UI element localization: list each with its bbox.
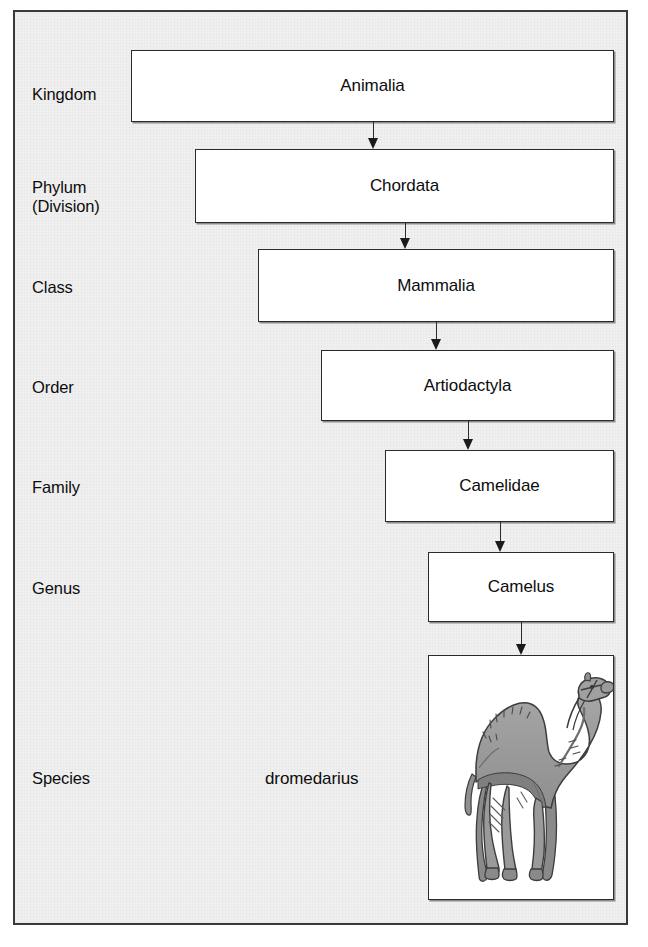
taxon-box-family[interactable]: Camelidae [385, 450, 614, 522]
taxon-name-order: Artiodactyla [424, 376, 512, 396]
rank-label-genus: Genus [32, 579, 80, 598]
arrow-order-to-family [462, 421, 475, 450]
taxon-name-family: Camelidae [459, 476, 539, 496]
taxon-box-class[interactable]: Mammalia [258, 249, 614, 322]
taxon-name-phylum: Chordata [370, 176, 439, 196]
rank-label-family: Family [32, 478, 80, 497]
taxon-name-genus: Camelus [488, 577, 554, 597]
taxon-name-species: dromedarius [265, 769, 358, 789]
taxon-box-species[interactable] [428, 655, 614, 900]
figure-page: Kingdom Phylum (Division) Class Order Fa… [0, 0, 648, 947]
rank-label-class: Class [32, 278, 73, 297]
rank-label-phylum: Phylum (Division) [32, 178, 100, 216]
taxon-box-order[interactable]: Artiodactyla [321, 350, 614, 421]
taxon-name-class: Mammalia [397, 276, 475, 296]
taxon-name-kingdom: Animalia [340, 76, 404, 96]
taxon-box-phylum[interactable]: Chordata [195, 149, 614, 223]
rank-label-species: Species [32, 769, 90, 788]
arrow-class-to-order [430, 322, 443, 350]
arrow-family-to-genus [494, 522, 507, 552]
rank-label-order: Order [32, 378, 74, 397]
taxon-box-genus[interactable]: Camelus [428, 552, 614, 622]
arrow-phylum-to-class [399, 223, 412, 249]
dromedary-camel-icon [429, 656, 614, 900]
arrow-genus-to-species [515, 622, 528, 655]
figure-frame: Kingdom Phylum (Division) Class Order Fa… [13, 10, 628, 925]
taxon-box-kingdom[interactable]: Animalia [131, 50, 614, 122]
arrow-kingdom-to-phylum [367, 122, 380, 149]
rank-label-kingdom: Kingdom [32, 85, 96, 104]
